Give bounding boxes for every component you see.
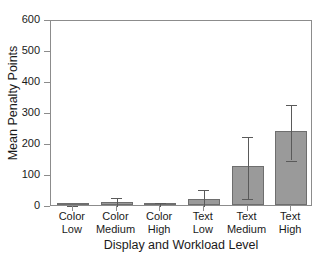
x-tick-label-line1: Text (193, 210, 213, 222)
error-bar-cap-upper (286, 105, 297, 106)
y-tick-label: 400 (0, 76, 40, 87)
error-bar-line (248, 137, 249, 199)
error-bar-line (291, 105, 292, 161)
x-tick-label-line1: Text (236, 210, 256, 222)
y-tick-label: 500 (0, 45, 40, 56)
y-tick-label: 200 (0, 138, 40, 149)
error-bar-cap-lower (242, 199, 253, 200)
bar-chart-figure: Mean Penalty Points 0100200300400500600 … (0, 0, 328, 261)
x-tick-label-line1: Text (280, 210, 300, 222)
error-bar-cap-upper (198, 190, 209, 191)
y-tick-label: 600 (0, 14, 40, 25)
error-bar-cap-upper (242, 137, 253, 138)
y-tick-mark (44, 206, 50, 207)
bar (57, 203, 89, 205)
plot-area (50, 20, 312, 206)
x-tick-label-line2: High (255, 223, 325, 236)
y-tick-label: 0 (0, 200, 40, 211)
error-bar-line (204, 190, 205, 207)
error-bar-cap-lower (286, 161, 297, 162)
x-tick-label: TextHigh (255, 210, 325, 236)
error-bar-cap-upper (67, 206, 78, 207)
error-bar-line (117, 198, 118, 207)
error-bar-cap-upper (111, 198, 122, 199)
y-tick-label: 300 (0, 107, 40, 118)
error-bar-cap-upper (155, 203, 166, 204)
x-axis-title: Display and Workload Level (50, 238, 312, 252)
y-tick-label: 100 (0, 169, 40, 180)
